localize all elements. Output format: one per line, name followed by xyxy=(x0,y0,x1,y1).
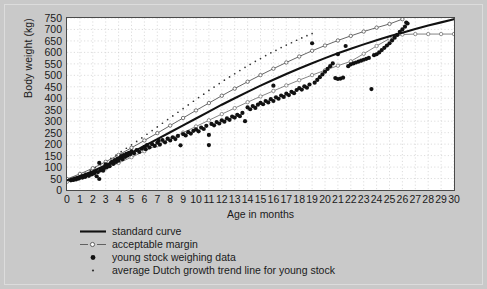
x-tick-label: 29 xyxy=(435,193,447,205)
y-tick-label: 400 xyxy=(44,92,62,104)
legend-label: average Dutch growth trend line for youn… xyxy=(112,264,335,276)
legend-marker-solid-line-icon xyxy=(78,224,108,237)
x-tick-label: 28 xyxy=(422,193,434,205)
y-tick-label: 550 xyxy=(44,58,62,70)
y-tick-label: 100 xyxy=(44,161,62,173)
x-tick-label: 15 xyxy=(255,193,267,205)
legend-marker-dashed-line-open-circle-icon xyxy=(78,237,108,250)
series-acceptable-margin-upper xyxy=(67,18,404,181)
legend-label: acceptable margin xyxy=(112,238,198,250)
legend-item: standard curve xyxy=(78,224,335,237)
x-tick-label: 23 xyxy=(358,193,370,205)
y-tick-label: 50 xyxy=(50,173,62,185)
x-tick-label: 16 xyxy=(268,193,280,205)
x-tick-label: 11 xyxy=(203,193,214,205)
x-tick-label: 12 xyxy=(216,193,228,205)
x-tick-label: 22 xyxy=(345,193,357,205)
chart-figure: Body weight (kg) 05010015020025030035040… xyxy=(0,0,487,289)
x-tick-label: 20 xyxy=(319,193,331,205)
legend-label: standard curve xyxy=(112,225,181,237)
y-tick-label: 300 xyxy=(44,115,62,127)
y-tick-label: 700 xyxy=(44,23,62,35)
x-tick-label: 3 xyxy=(103,193,109,205)
x-tick-label: 25 xyxy=(384,193,396,205)
x-tick-label: 8 xyxy=(167,193,173,205)
y-tick-label: 500 xyxy=(44,69,62,81)
x-tick-label: 13 xyxy=(229,193,241,205)
x-tick-label: 30 xyxy=(448,193,460,205)
plot-svg xyxy=(67,18,454,190)
x-tick-label: 26 xyxy=(397,193,409,205)
y-tick-label: 750 xyxy=(44,12,62,24)
x-tick-label: 9 xyxy=(180,193,186,205)
x-tick-label: 27 xyxy=(409,193,421,205)
x-tick-label: 24 xyxy=(371,193,383,205)
legend-label: young stock weighing data xyxy=(112,251,236,263)
x-axis-tick-labels: 0123456789101112131415161718192021222324… xyxy=(66,193,455,207)
legend-item: average Dutch growth trend line for youn… xyxy=(78,263,335,276)
x-tick-label: 5 xyxy=(129,193,135,205)
x-tick-label: 0 xyxy=(64,193,70,205)
x-tick-label: 17 xyxy=(280,193,292,205)
legend-item: young stock weighing data xyxy=(78,250,335,263)
x-tick-label: 19 xyxy=(306,193,318,205)
x-tick-label: 4 xyxy=(116,193,122,205)
y-tick-label: 250 xyxy=(44,127,62,139)
chart-legend: standard curveacceptable marginyoung sto… xyxy=(78,224,335,276)
y-tick-label: 200 xyxy=(44,138,62,150)
y-tick-label: 350 xyxy=(44,104,62,116)
legend-marker-small-dot-icon xyxy=(78,263,108,276)
legend-item: acceptable margin xyxy=(78,237,335,250)
series-acceptable-margin-lower xyxy=(67,32,454,183)
x-tick-label: 10 xyxy=(190,193,202,205)
x-tick-label: 21 xyxy=(332,193,344,205)
y-tick-label: 650 xyxy=(44,35,62,47)
x-tick-label: 18 xyxy=(293,193,305,205)
y-tick-label: 0 xyxy=(56,184,62,196)
x-tick-label: 6 xyxy=(141,193,147,205)
legend-marker-filled-circle-icon xyxy=(78,250,108,263)
y-tick-label: 150 xyxy=(44,150,62,162)
plot-area xyxy=(66,17,455,191)
x-tick-label: 2 xyxy=(90,193,96,205)
x-tick-label: 7 xyxy=(154,193,160,205)
x-axis-title: Age in months xyxy=(66,208,455,220)
series-young-stock-scatter xyxy=(69,20,410,182)
y-tick-label: 600 xyxy=(44,46,62,58)
y-tick-label: 450 xyxy=(44,81,62,93)
x-tick-label: 1 xyxy=(77,193,83,205)
x-tick-label: 14 xyxy=(242,193,254,205)
y-axis-tick-labels: 0501001502002503003504004505005506006507… xyxy=(22,17,62,191)
